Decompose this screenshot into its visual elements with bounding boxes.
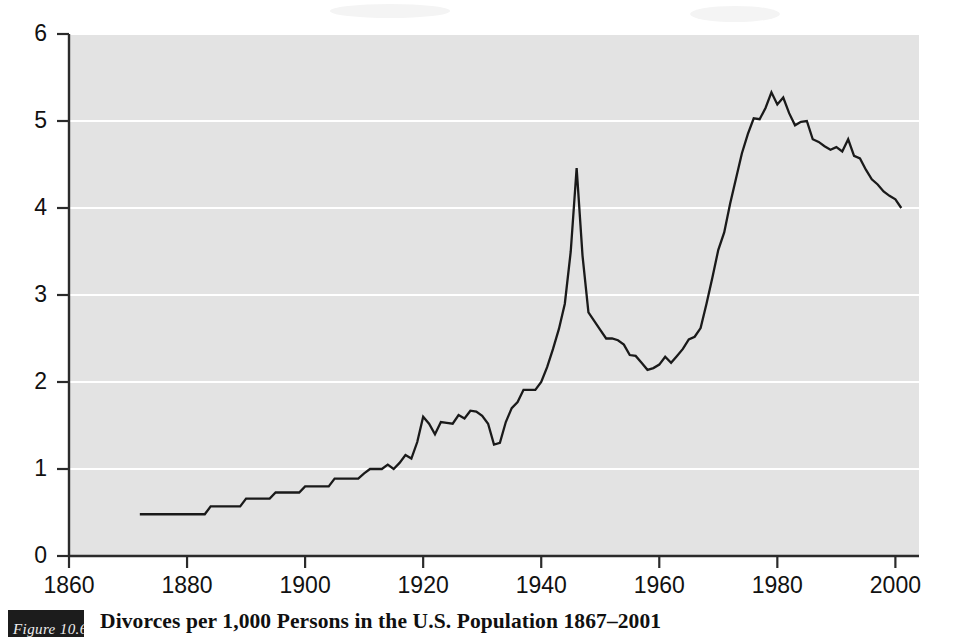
figure-caption-text: Divorces per 1,000 Persons in the U.S. P…: [100, 609, 661, 634]
svg-text:1920: 1920: [398, 572, 449, 595]
svg-text:1860: 1860: [43, 572, 94, 595]
figure-container: 0123456 18601880190019201940196019802000…: [0, 0, 953, 637]
svg-text:1: 1: [34, 455, 47, 481]
x-axis-tick-labels: 18601880190019201940196019802000: [43, 572, 921, 595]
svg-text:2: 2: [34, 368, 47, 394]
svg-text:3: 3: [34, 281, 47, 307]
x-axis-ticks: [69, 556, 895, 568]
y-axis-ticks: [57, 34, 69, 556]
figure-number-label: Figure 10.6: [13, 621, 83, 637]
svg-text:4: 4: [34, 194, 47, 220]
divorce-rate-line-chart: 0123456 18601880190019201940196019802000: [0, 0, 953, 595]
svg-text:1940: 1940: [516, 572, 567, 595]
figure-number-box: Figure 10.6: [8, 610, 84, 637]
svg-text:2000: 2000: [870, 572, 921, 595]
svg-text:6: 6: [34, 20, 47, 46]
svg-text:5: 5: [34, 107, 47, 133]
figure-caption-row: Figure 10.6 Divorces per 1,000 Persons i…: [0, 604, 953, 637]
svg-text:1880: 1880: [161, 572, 212, 595]
y-axis-tick-labels: 0123456: [34, 20, 47, 568]
svg-text:0: 0: [34, 542, 47, 568]
svg-text:1960: 1960: [634, 572, 685, 595]
svg-text:1900: 1900: [280, 572, 331, 595]
svg-text:1980: 1980: [752, 572, 803, 595]
